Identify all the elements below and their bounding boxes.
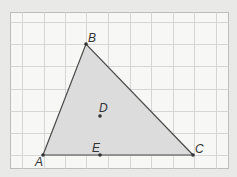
label-a: A — [34, 155, 43, 169]
label-c: C — [195, 142, 204, 156]
label-d: D — [99, 101, 108, 115]
label-b: B — [88, 31, 96, 45]
triangle-diagram: A B C D E — [0, 0, 237, 177]
label-e: E — [92, 141, 101, 155]
